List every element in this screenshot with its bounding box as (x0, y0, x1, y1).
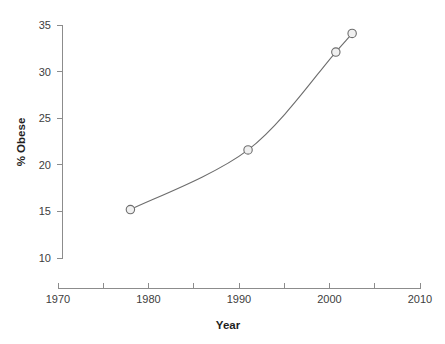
y-axis: 101520253035 % Obese (15, 19, 63, 264)
data-point-marker (126, 205, 134, 213)
y-axis-tick-labels: 101520253035 (39, 19, 51, 264)
x-axis-title: Year (216, 319, 241, 331)
series-markers (126, 29, 356, 214)
data-series-obese (126, 29, 356, 214)
y-tick-label: 25 (39, 112, 51, 124)
y-tick-label: 30 (39, 66, 51, 78)
y-tick-label: 20 (39, 159, 51, 171)
x-tick-label: 1970 (46, 293, 70, 305)
x-tick-label: 1990 (227, 293, 251, 305)
x-tick-label: 1980 (136, 293, 160, 305)
line-chart: 101520253035 % Obese 1970198019902000201… (0, 0, 445, 344)
x-tick-label: 2000 (317, 293, 341, 305)
chart-figure: 101520253035 % Obese 1970198019902000201… (0, 0, 445, 344)
y-axis-title: % Obese (15, 118, 27, 167)
y-tick-label: 35 (39, 19, 51, 31)
y-tick-label: 10 (39, 252, 51, 264)
x-axis-tick-labels: 19701980199020002010 (46, 293, 432, 305)
data-point-marker (348, 29, 356, 37)
x-tick-label: 2010 (408, 293, 432, 305)
data-point-marker (332, 48, 340, 56)
x-axis-ticks (58, 283, 420, 289)
x-axis: 19701980199020002010 Year (46, 283, 432, 331)
y-tick-label: 15 (39, 205, 51, 217)
series-line (130, 33, 352, 209)
y-axis-ticks (57, 25, 63, 258)
data-point-marker (244, 146, 252, 154)
